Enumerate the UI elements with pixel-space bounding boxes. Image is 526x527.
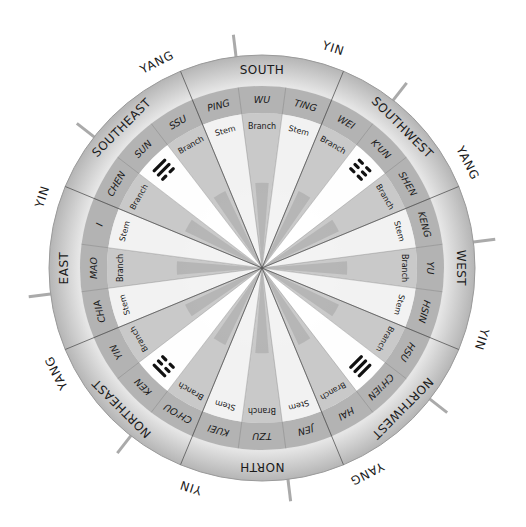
direction-label-east: EAST (57, 251, 71, 284)
kind-label-branch: Branch (400, 254, 409, 282)
polarity-label-yin: YIN (320, 38, 346, 58)
direction-label-south: SOUTH (240, 63, 285, 77)
direction-label-west: WEST (454, 250, 468, 287)
kind-label-branch: Branch (116, 254, 125, 282)
polarity-label-yin: YIN (32, 184, 52, 210)
mountain-label-wu: WU (254, 94, 270, 105)
polarity-label-yang: YANG (42, 354, 71, 393)
polarity-label-yang: YANG (453, 143, 482, 182)
polarity-label-yin: YIN (472, 326, 492, 352)
polarity-label-yang: YANG (348, 459, 387, 488)
kind-label-branch: Branch (248, 406, 276, 415)
geomantic-compass: SOUTHSOUTHWESTWESTNORTHWESTNORTHNORTHEAS… (0, 0, 526, 527)
mountain-label-mao: MAO (88, 256, 99, 279)
kind-label-branch: Branch (248, 122, 276, 131)
mountain-label-yu: YU (425, 262, 436, 275)
polarity-label-yin: YIN (178, 478, 204, 498)
direction-label-north: NORTH (240, 460, 285, 474)
polarity-label-yang: YANG (137, 48, 176, 77)
mountain-label-tzu: TZU (252, 431, 271, 442)
